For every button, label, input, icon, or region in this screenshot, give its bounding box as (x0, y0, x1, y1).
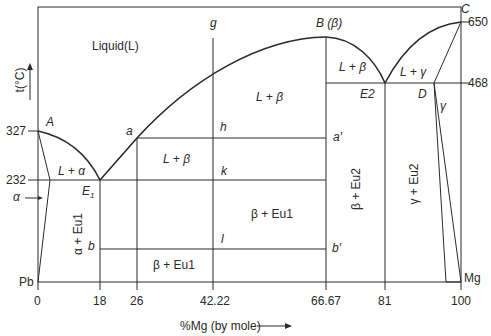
x-tick-100: 100 (451, 295, 471, 307)
point-l: l (221, 233, 224, 245)
y-tick-232: 232 (6, 174, 26, 186)
region-alpha: α (13, 191, 20, 203)
y-axis-label: t(°C) (14, 60, 26, 100)
region-liquid: Liquid(L) (92, 40, 139, 52)
y-axis-arrowhead (27, 63, 33, 70)
pb-label: Pb (19, 276, 34, 288)
region-l-gamma: L + γ (400, 66, 426, 78)
region-l-beta-upper: L + β (256, 91, 283, 103)
point-b: b (88, 240, 95, 252)
alpha-solvus (38, 131, 50, 282)
point-a: a (126, 125, 133, 137)
x-tick-0: 0 (34, 295, 41, 307)
region-beta-eu1-low: β + Eu1 (153, 259, 195, 271)
y-tick-650: 650 (468, 16, 488, 28)
point-E1-main: E (82, 184, 90, 198)
x-tick-18: 18 (93, 295, 106, 307)
x-tick-81: 81 (378, 295, 391, 307)
point-E1: E1 (82, 185, 94, 202)
region-beta-eu2: β + Eu2 (350, 159, 362, 219)
point-h: h (220, 121, 227, 133)
point-E2: E2 (360, 88, 375, 100)
point-k: k (221, 165, 227, 177)
region-alpha-eu1: α + Eu1 (72, 206, 84, 262)
region-l-beta-lower: L + β (163, 153, 190, 165)
point-E1-sub: 1 (90, 191, 94, 200)
x-tick-26: 26 (130, 295, 143, 307)
gamma-solvus (434, 22, 461, 282)
point-b-prime: b′ (332, 242, 341, 254)
x-tick-66-67: 66.67 (311, 295, 341, 307)
point-B: B (β) (316, 17, 342, 29)
y-tick-468: 468 (468, 77, 488, 89)
region-l-alpha: L + α (58, 165, 85, 177)
point-D: D (418, 88, 427, 100)
point-g: g (210, 17, 217, 29)
point-C: C (461, 3, 470, 15)
x-tick-42-22: 42.22 (200, 295, 230, 307)
region-gamma: γ (440, 100, 446, 112)
gamma-solvus-lower (434, 83, 461, 282)
y-tick-327: 327 (6, 125, 26, 137)
x-axis-label: %Mg (by mole) (180, 320, 261, 332)
x-axis-arrowhead (285, 323, 292, 329)
point-a-prime: a′ (333, 131, 342, 143)
region-l-beta-right: L + β (339, 61, 366, 73)
mg-label: Mg (464, 272, 481, 284)
alpha-arrowhead (38, 196, 43, 200)
region-gamma-eu2: γ + Eu2 (408, 154, 420, 214)
point-A: A (46, 116, 54, 128)
region-beta-eu1-mid: β + Eu1 (251, 208, 293, 220)
